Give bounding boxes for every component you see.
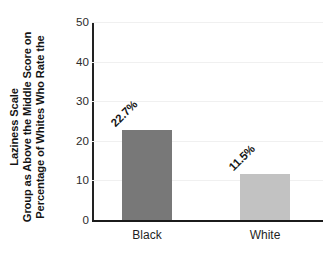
gridline: [92, 62, 323, 63]
y-axis-title: Percentage of Whites Who Rate the Group …: [0, 0, 56, 254]
y-axis-tick-labels: 01020304050: [60, 0, 89, 254]
y-axis-title-line-3: Laziness Scale: [8, 88, 21, 166]
bar-white: [240, 174, 290, 220]
y-axis-title-rotated-text: Percentage of Whites Who Rate the Group …: [8, 32, 48, 222]
bar-black: [122, 130, 172, 220]
gridline: [92, 22, 323, 23]
y-axis-title-line-1: Percentage of Whites Who Rate the: [35, 35, 48, 218]
y-axis-tick-label: 50: [63, 16, 89, 28]
x-axis-label-black: Black: [102, 228, 192, 242]
y-axis-tick-label: 40: [63, 56, 89, 68]
y-axis-tick-label: 30: [63, 95, 89, 107]
y-axis-tick-label: 20: [63, 135, 89, 147]
plot-area: [92, 20, 323, 222]
x-axis-label-white: White: [220, 228, 310, 242]
y-axis-tick-label: 10: [63, 174, 89, 186]
bar-chart: Percentage of Whites Who Rate the Group …: [0, 0, 335, 254]
y-axis-title-line-2: Group as Above the Middle Score on: [21, 32, 34, 222]
y-axis-tick-label: 0: [63, 214, 89, 226]
